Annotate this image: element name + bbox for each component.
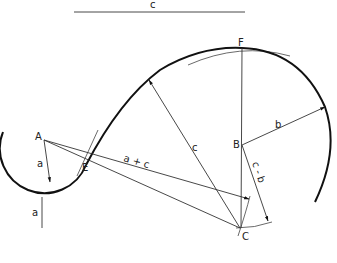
dimension-label-b: b: [275, 119, 281, 130]
geometry-diagram: c a A B C E F a b c a + c c - b: [0, 0, 337, 263]
dimension-label-a-plus-c: a + c: [122, 152, 150, 170]
arc-c: [86, 48, 242, 165]
reference-segment-c: c: [74, 0, 245, 12]
dimension-c: [149, 80, 240, 228]
dimension-b: [242, 107, 325, 145]
dimension-label-c-minus-b: c - b: [250, 160, 268, 184]
dimension-label-a: a: [37, 158, 43, 169]
line-f-c: [241, 48, 242, 228]
point-label-b: B: [233, 139, 240, 150]
dimension-label-c: c: [192, 142, 198, 153]
dimension-a: [44, 140, 50, 182]
reference-segment-a: a: [32, 197, 42, 228]
construction-arc-f: [188, 51, 290, 65]
point-label-a: A: [35, 131, 42, 142]
construction-arc-ac: [238, 196, 250, 236]
reference-label-c: c: [150, 0, 156, 10]
point-label-c: C: [242, 231, 249, 242]
point-label-f: F: [238, 37, 244, 48]
reference-label-a: a: [32, 207, 38, 218]
point-label-e: E: [82, 162, 88, 173]
